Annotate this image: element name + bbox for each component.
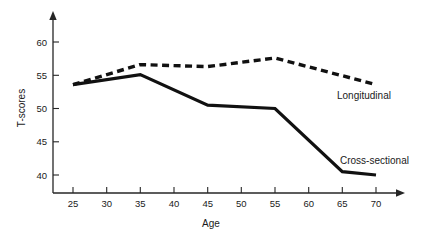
y-tick-label-40: 40	[36, 170, 47, 181]
x-tick-label-40: 40	[169, 198, 180, 209]
y-tick-label-50: 50	[36, 103, 47, 114]
x-axis-arrow-icon	[396, 189, 405, 196]
series-line-longitudinal	[73, 58, 376, 85]
y-tick-label-60: 60	[36, 37, 47, 48]
y-tick-label-55: 55	[36, 70, 47, 81]
axes-group	[49, 11, 405, 197]
x-tick-label-30: 30	[101, 198, 112, 209]
x-ticks-group: 25 30 35 40 45 50 55 60 65 70	[68, 187, 382, 209]
x-tick-label-50: 50	[236, 198, 247, 209]
y-ticks-group: 40 45 50 55 60	[36, 37, 59, 181]
line-chart-canvas: 40 45 50 55 60 25 30 35 40 45 50 55 60	[0, 0, 432, 241]
x-tick-label-55: 55	[270, 198, 281, 209]
x-tick-label-35: 35	[135, 198, 146, 209]
series-annotation-cross-sectional: Cross-sectional	[340, 155, 409, 166]
x-tick-label-45: 45	[202, 198, 213, 209]
y-tick-label-45: 45	[36, 136, 47, 147]
x-axis-title: Age	[202, 218, 220, 229]
series-annotation-longitudinal: Longitudinal	[337, 90, 391, 101]
y-axis-title: T-scores	[16, 89, 27, 127]
x-tick-label-60: 60	[303, 198, 314, 209]
x-tick-label-65: 65	[337, 198, 348, 209]
chart-figure: 40 45 50 55 60 25 30 35 40 45 50 55 60	[0, 0, 432, 241]
x-tick-label-70: 70	[371, 198, 382, 209]
x-tick-label-25: 25	[68, 198, 79, 209]
series-line-cross-sectional	[73, 75, 376, 175]
y-axis-arrow-icon	[49, 11, 56, 20]
